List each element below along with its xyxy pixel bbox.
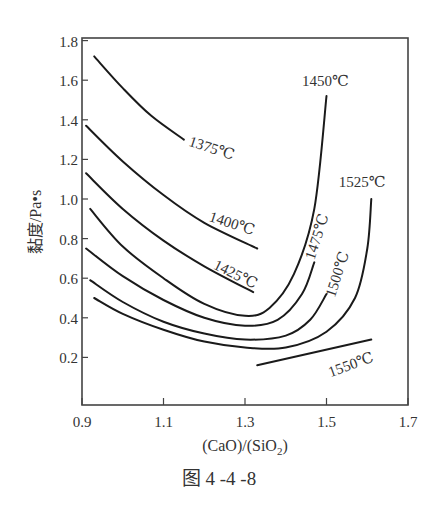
x-tick-label: 1.5 [317,414,336,430]
x-tick-label: 1.3 [236,414,255,430]
curve-label: 1475℃ [302,212,332,261]
x-tick-label: 0.9 [73,414,92,430]
y-tick-label: 1.6 [59,73,78,89]
x-axis-title: (CaO)/(SiO2) [202,437,287,457]
isotherm-curves [86,56,371,365]
curve-label: 1525℃ [339,174,386,190]
x-axis-ticks: 0.91.11.31.51.7 [73,398,418,430]
y-tick-label: 0.2 [59,350,78,366]
figure-caption: 图 4 -4 -8 [0,463,438,490]
curve-label: 1425℃ [211,257,260,292]
viscosity-chart: 0.20.40.60.81.01.21.41.61.8 0.91.11.31.5… [0,0,438,527]
curve-1475c [86,249,314,326]
isotherm-labels: 1375℃1400℃1425℃1450℃1475℃1500℃1525℃1550℃ [187,73,385,380]
curve-label: 1500℃ [322,249,352,298]
y-tick-label: 1.2 [59,152,78,168]
y-tick-label: 1.8 [59,34,78,50]
curve-label: 1450℃ [302,73,349,89]
curve-1375c [94,56,184,139]
y-tick-label: 0.8 [59,232,78,248]
x-tick-label: 1.7 [399,414,418,430]
y-tick-label: 1.4 [59,113,78,129]
x-tick-label: 1.1 [154,414,173,430]
y-tick-label: 0.6 [59,271,78,287]
curve-label: 1375℃ [187,133,236,163]
y-axis-title: 黏度/Pa•s [27,190,44,254]
curve-label: 1400℃ [207,208,256,238]
y-axis-ticks: 0.20.40.60.81.01.21.41.61.8 [59,34,88,367]
y-tick-label: 0.4 [59,311,78,327]
curve-label: 1550℃ [326,349,375,380]
curve-1450c [90,96,326,316]
y-tick-label: 1.0 [59,192,78,208]
